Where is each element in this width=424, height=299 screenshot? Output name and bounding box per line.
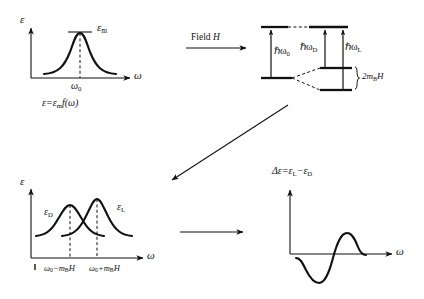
epsilon-D-subscript: D xyxy=(48,211,53,218)
diagonal-arrow-line xyxy=(172,105,288,180)
tick-right-plus-m: +m xyxy=(98,263,110,273)
energy-level-diagram xyxy=(261,27,360,90)
omega-zero-symbol: ω xyxy=(71,80,78,91)
bottom-right-axes xyxy=(290,190,392,254)
top-left-y-axis-label: ε xyxy=(20,14,24,25)
split-branch-lower xyxy=(292,78,320,90)
physics-figure: ε ω εm ω0 ε=εmf(ω) Field H ℏω0 ℏωD ℏωL 2… xyxy=(0,0,424,299)
hbar-omega-zero-label: ℏω0 xyxy=(274,46,290,57)
tick-left-minus-m: −m xyxy=(53,263,65,273)
hbar-omega-zero-subscript: 0 xyxy=(287,50,290,57)
tick-right-H: H xyxy=(114,263,120,273)
curve-label-epsilon-D: εD xyxy=(44,207,53,218)
hbar-omega-L-subscript: L xyxy=(358,46,362,53)
bottom-left-x-axis-label: ω xyxy=(147,250,155,261)
splitting-brace xyxy=(355,67,360,89)
epsilon-L-subscript: L xyxy=(121,206,125,213)
field-h-arrow-label: Field H xyxy=(191,33,220,43)
bottom-right-x-axis-label: ω xyxy=(396,246,404,257)
splitting-field-symbol: H xyxy=(377,71,384,81)
hbar-omega-zero-symbol: ℏω xyxy=(274,45,287,56)
field-h-symbol: H xyxy=(213,32,220,42)
curve-label-epsilon-L: εL xyxy=(117,202,125,213)
delta-epsilon-D-sub: D xyxy=(307,170,312,177)
hbar-omega-L-symbol: ℏω xyxy=(345,41,358,52)
omega-zero-subscript: 0 xyxy=(78,85,81,92)
top-left-x-axis-label: ω xyxy=(134,70,142,81)
omega-zero-tick-label: ω0 xyxy=(71,81,81,92)
caption-function: f(ω) xyxy=(62,97,79,108)
tick-label-omega-plus: ω0+mBH xyxy=(89,264,120,274)
peak-epsilon-subscript: m xyxy=(101,26,107,35)
dispersion-curve xyxy=(296,233,366,283)
caption-epsilon-eq: ε=ε xyxy=(42,97,57,108)
delta-epsilon-prefix: Δε=ε xyxy=(272,165,293,176)
hbar-omega-L-label: ℏωL xyxy=(345,42,362,53)
split-branch-upper xyxy=(292,68,320,78)
splitting-prefix: 2m xyxy=(362,71,373,81)
hbar-omega-D-symbol: ℏω xyxy=(300,41,313,52)
peak-epsilon-m-label: εm xyxy=(97,22,107,34)
hbar-omega-D-subscript: D xyxy=(313,46,318,53)
top-left-caption: ε=εmf(ω) xyxy=(42,98,78,109)
field-word: Field xyxy=(191,32,213,42)
zeeman-splitting-label: 2mBH xyxy=(362,72,384,82)
bottom-left-y-axis-label: ε xyxy=(20,176,24,187)
bottom-left-axes xyxy=(31,189,143,270)
delta-epsilon-minus: −ε xyxy=(297,165,308,176)
hbar-omega-D-label: ℏωD xyxy=(300,42,318,53)
delta-epsilon-axis-label: Δε=εL−εD xyxy=(272,166,312,177)
tick-label-omega-minus: ω0−mBH xyxy=(44,264,75,274)
tick-left-H: H xyxy=(69,263,75,273)
